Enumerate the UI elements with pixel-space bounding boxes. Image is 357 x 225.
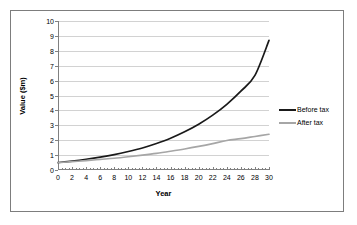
y-tick-label: 5 — [50, 92, 54, 99]
x-tick-label: 16 — [167, 174, 175, 181]
legend-item: After tax — [279, 116, 329, 129]
series-line — [58, 40, 269, 162]
y-axis-title: Value ($m) — [18, 77, 27, 115]
x-tick-label: 10 — [124, 174, 132, 181]
x-tick-label: 2 — [70, 174, 74, 181]
y-tick-label: 7 — [50, 62, 54, 69]
legend-swatch — [279, 109, 296, 111]
x-tick-label: 20 — [195, 174, 203, 181]
x-tick-label: 0 — [56, 174, 60, 181]
legend-item: Before tax — [279, 103, 329, 116]
chart-legend: Before taxAfter tax — [279, 103, 329, 129]
x-tick-label: 24 — [223, 174, 231, 181]
legend-label: After tax — [297, 119, 323, 126]
x-tick-label: 14 — [153, 174, 161, 181]
x-tick-label: 12 — [138, 174, 146, 181]
y-tick-label: 0 — [50, 167, 54, 174]
y-tick-label: 9 — [50, 32, 54, 39]
x-tick-label: 28 — [251, 174, 259, 181]
y-tick-label: 8 — [50, 47, 54, 54]
plot-frame: 012345678910 024681012141618202224262830 — [58, 21, 269, 170]
x-axis-title: Year — [58, 189, 269, 198]
x-tick-mark — [269, 167, 270, 170]
x-tick-label: 18 — [181, 174, 189, 181]
x-tick-label: 26 — [237, 174, 245, 181]
x-tick-label: 6 — [98, 174, 102, 181]
y-tick-label: 1 — [50, 152, 54, 159]
series-lines — [58, 21, 269, 170]
y-tick-label: 3 — [50, 122, 54, 129]
x-tick-label: 22 — [209, 174, 217, 181]
y-tick-label: 10 — [46, 18, 54, 25]
legend-label: Before tax — [297, 106, 329, 113]
y-tick-label: 6 — [50, 77, 54, 84]
x-tick-label: 30 — [265, 174, 273, 181]
chart-figure: Value ($m) Year 012345678910 02468101214… — [10, 10, 344, 212]
legend-swatch — [279, 122, 296, 124]
x-tick-label: 8 — [112, 174, 116, 181]
x-tick-label: 4 — [84, 174, 88, 181]
y-tick-label: 2 — [50, 137, 54, 144]
plot-area: 012345678910 024681012141618202224262830 — [58, 21, 269, 170]
y-tick-mark — [55, 170, 58, 171]
y-tick-label: 4 — [50, 107, 54, 114]
